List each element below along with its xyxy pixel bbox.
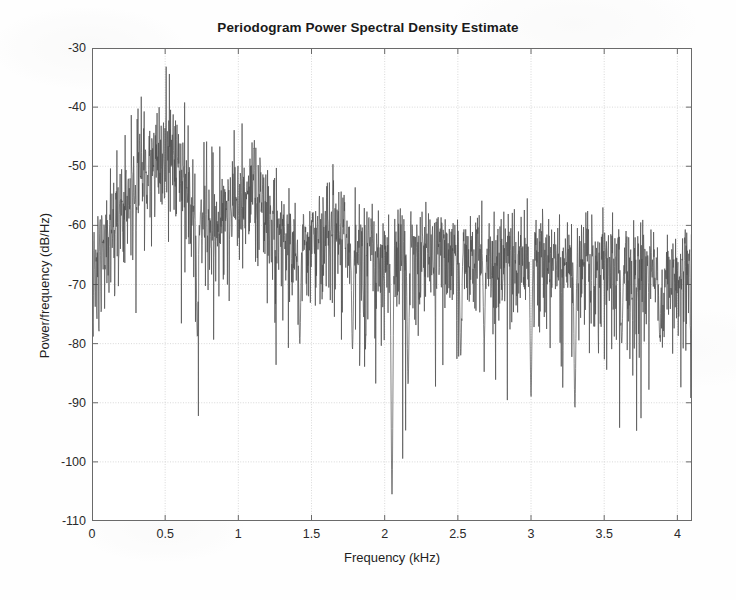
psd-plot-svg [92,48,692,521]
y-tick-label: -100 [61,455,86,469]
y-tick-label: -50 [68,159,86,173]
plot-area [92,48,692,521]
y-tick-label: -80 [68,337,86,351]
y-tick-label: -90 [68,396,86,410]
y-axis-label: Power/frequency (dB/Hz) [37,156,52,416]
y-tick-label: -40 [68,100,86,114]
x-tick-label: 3 [528,527,535,541]
y-tick-label: -70 [68,278,86,292]
x-axis-label: Frequency (kHz) [92,550,692,565]
y-tick-label: -60 [68,218,86,232]
x-tick-label: 3.5 [595,527,612,541]
x-tick-label: 1.5 [303,527,320,541]
x-axis-tick-labels: 00.511.522.533.54 [92,527,692,547]
x-tick-label: 2.5 [449,527,466,541]
x-tick-label: 4 [674,527,681,541]
x-tick-label: 0 [89,527,96,541]
figure-canvas: Periodogram Power Spectral Density Estim… [0,0,736,600]
y-tick-label: -30 [68,41,86,55]
y-tick-label: -110 [62,514,86,528]
x-tick-label: 1 [235,527,242,541]
x-tick-label: 2 [381,527,388,541]
chart-title: Periodogram Power Spectral Density Estim… [0,20,736,35]
x-tick-label: 0.5 [156,527,173,541]
